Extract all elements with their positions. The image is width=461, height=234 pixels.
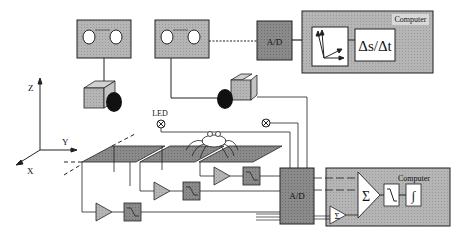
amplifier-icon	[96, 203, 112, 221]
signal-bus	[256, 214, 280, 220]
camera-left	[84, 58, 122, 112]
velocity-label: Δs/Δt	[358, 38, 392, 54]
top-computer-label: Computer	[395, 15, 427, 24]
axis-y-label: Y	[62, 137, 69, 147]
top-ad-label: A/D	[267, 37, 283, 47]
video-monitor-right	[155, 20, 209, 58]
bottom-computer-label: Computer	[398, 174, 430, 183]
force-platform-diagram: A/D Computer Δs/Δt	[0, 0, 461, 234]
top-computer: Computer Δs/Δt	[302, 11, 433, 73]
filter-icon	[243, 167, 260, 185]
filter-icon	[183, 182, 200, 200]
bottom-ad-label: A/D	[289, 191, 305, 201]
small-sum-label: Σ	[334, 211, 339, 221]
axis-z-label: Z	[28, 83, 34, 93]
bottom-ad-converter: A/D	[280, 168, 314, 224]
xyz-axes	[16, 78, 77, 165]
amplifier-icon	[154, 182, 170, 200]
top-ad-converter: A/D	[257, 21, 292, 60]
axis-x-label: X	[27, 166, 34, 176]
amplifier-icon	[214, 167, 230, 185]
video-monitor-left	[77, 20, 131, 58]
sum-label: Σ	[362, 189, 370, 204]
bottom-computer: Computer Σ Σ ∫	[314, 168, 450, 226]
filter-icon	[124, 203, 141, 221]
signal-chain-3	[200, 162, 280, 185]
led-label: LED	[152, 109, 168, 118]
led-indicator-right	[262, 119, 298, 168]
